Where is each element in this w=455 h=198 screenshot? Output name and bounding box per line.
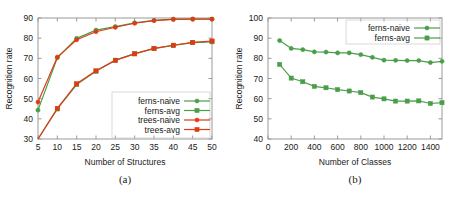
data-point-trees-avg	[171, 43, 175, 47]
data-point-ferns-naive	[394, 58, 398, 62]
legend-label-ferns-avg: ferns-avg	[375, 33, 411, 43]
y-axis-title: Recognition rate	[4, 47, 14, 109]
data-point-ferns-avg	[405, 99, 409, 103]
legend-label-ferns-naive: ferns-naive	[368, 23, 410, 33]
x-tick-label: 30	[130, 142, 140, 152]
data-point-ferns-avg	[278, 62, 282, 66]
data-point-ferns-avg	[417, 99, 421, 103]
chart-a-svg: 304050607080905101520253035404550Number …	[0, 0, 228, 198]
data-point-trees-avg	[133, 52, 137, 56]
subfigure-b: 4050607080901000200400600800100012001400…	[228, 0, 455, 198]
subfigure-label: (b)	[349, 173, 362, 186]
y-tick-label: 90	[254, 33, 264, 43]
data-point-trees-naive	[55, 55, 59, 59]
y-tick-label: 50	[254, 114, 264, 124]
data-point-ferns-avg	[289, 76, 293, 80]
data-point-ferns-naive	[347, 51, 351, 55]
data-point-trees-naive	[152, 19, 156, 23]
data-point-ferns-naive	[36, 108, 40, 112]
x-tick-label: 600	[331, 142, 345, 152]
plot-frame	[38, 18, 212, 139]
y-tick-label: 40	[24, 114, 34, 124]
data-point-trees-avg	[113, 58, 117, 62]
x-tick-label: 40	[169, 142, 179, 152]
data-point-ferns-avg	[347, 89, 351, 93]
x-tick-label: 10	[53, 142, 63, 152]
data-point-ferns-naive	[382, 58, 386, 62]
x-tick-label: 45	[188, 142, 198, 152]
y-tick-label: 60	[254, 94, 264, 104]
chart-b-svg: 4050607080901000200400600800100012001400…	[228, 0, 455, 198]
data-point-trees-naive	[171, 17, 175, 21]
legend-marker-trees-naive	[195, 118, 199, 122]
y-tick-label: 70	[24, 53, 34, 63]
x-tick-label: 400	[307, 142, 321, 152]
x-tick-label: 50	[207, 142, 217, 152]
subfigure-a: 304050607080905101520253035404550Number …	[0, 0, 228, 198]
subfigure-label: (a)	[119, 173, 132, 186]
legend-label-trees-avg: trees-avg	[145, 125, 181, 135]
x-tick-label: 25	[111, 142, 121, 152]
data-point-ferns-naive	[324, 50, 328, 54]
data-point-ferns-naive	[278, 38, 282, 42]
data-point-ferns-naive	[312, 50, 316, 54]
x-tick-label: 800	[354, 142, 368, 152]
data-point-ferns-avg	[370, 95, 374, 99]
legend-marker-ferns-naive	[195, 99, 199, 103]
data-point-ferns-avg	[312, 84, 316, 88]
x-tick-label: 200	[284, 142, 298, 152]
series-line-trees-avg	[38, 41, 212, 139]
data-point-trees-naive	[210, 17, 214, 21]
data-point-ferns-avg	[324, 86, 328, 90]
data-point-trees-naive	[94, 30, 98, 34]
y-tick-label: 70	[254, 74, 264, 84]
data-point-ferns-naive	[405, 58, 409, 62]
data-point-trees-avg	[55, 106, 59, 110]
data-point-ferns-naive	[289, 46, 293, 50]
x-axis-title: Number of Classes	[319, 157, 391, 167]
legend: ferns-naiveferns-avgtrees-naivetrees-avg	[112, 92, 210, 138]
x-tick-label: 20	[91, 142, 101, 152]
legend-label-ferns-avg: ferns-avg	[145, 106, 181, 116]
legend-label-ferns-naive: ferns-naive	[138, 96, 180, 106]
data-point-trees-avg	[191, 40, 195, 44]
data-point-trees-avg	[94, 69, 98, 73]
data-point-ferns-avg	[336, 87, 340, 91]
data-point-trees-naive	[75, 38, 79, 42]
y-tick-label: 60	[24, 74, 34, 84]
data-point-ferns-naive	[301, 48, 305, 52]
y-axis-title: Recognition rate	[234, 47, 244, 109]
x-tick-label: 1000	[375, 142, 394, 152]
data-point-ferns-avg	[428, 101, 432, 105]
legend-marker-trees-avg	[195, 127, 199, 131]
x-tick-label: 5	[36, 142, 41, 152]
x-tick-label: 1400	[421, 142, 440, 152]
y-tick-label: 30	[24, 134, 34, 144]
data-point-ferns-naive	[428, 60, 432, 64]
x-tick-label: 15	[72, 142, 82, 152]
series-line-trees-naive	[38, 19, 212, 102]
y-tick-label: 50	[24, 94, 34, 104]
data-point-ferns-avg	[301, 80, 305, 84]
data-point-ferns-naive	[370, 55, 374, 59]
y-tick-label: 100	[249, 13, 263, 23]
data-point-ferns-avg	[359, 91, 363, 95]
x-axis-title: Number of Structures	[85, 157, 166, 167]
data-point-ferns-naive	[336, 51, 340, 55]
x-tick-label: 1200	[398, 142, 417, 152]
y-tick-label: 80	[254, 53, 264, 63]
data-point-ferns-naive	[417, 58, 421, 62]
data-point-ferns-avg	[440, 101, 444, 105]
legend-marker-ferns-naive	[425, 26, 429, 30]
legend: ferns-naiveferns-avg	[346, 20, 440, 44]
data-point-trees-naive	[113, 25, 117, 29]
figure-container: 304050607080905101520253035404550Number …	[0, 0, 455, 198]
data-point-trees-avg	[75, 82, 79, 86]
data-point-trees-naive	[191, 17, 195, 21]
data-point-ferns-avg	[394, 99, 398, 103]
data-point-trees-naive	[133, 21, 137, 25]
data-point-trees-avg	[152, 46, 156, 50]
x-tick-label: 35	[149, 142, 159, 152]
y-tick-label: 80	[24, 33, 34, 43]
data-point-ferns-naive	[440, 59, 444, 63]
